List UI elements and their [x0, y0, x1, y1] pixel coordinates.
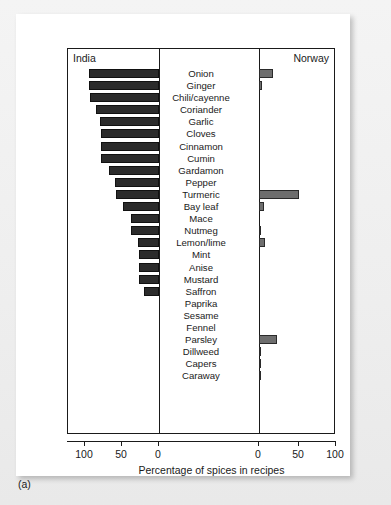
norway-bar — [259, 347, 261, 356]
x-axis-tick — [335, 441, 336, 446]
x-axis-tick-label: 50 — [115, 448, 127, 460]
spice-label: Mace — [68, 213, 334, 225]
spice-row: Parsley — [68, 334, 334, 346]
spice-row: Coriander — [68, 104, 334, 116]
india-bar — [101, 154, 159, 163]
x-axis-tick-label: 100 — [75, 448, 93, 460]
spice-label: Fennel — [68, 322, 334, 334]
spice-row: Anise — [68, 262, 334, 274]
x-axis-tick-label: 50 — [292, 448, 304, 460]
right-group-title: Norway — [293, 52, 329, 64]
x-axis-tick-label: 0 — [155, 448, 161, 460]
x-axis-tick — [121, 441, 122, 446]
india-bar — [90, 93, 159, 102]
norway-bar — [259, 335, 277, 344]
x-axis-tick — [84, 441, 85, 446]
bar-rows-container: OnionGingerChili/cayenneCorianderGarlicC… — [68, 68, 334, 382]
spice-label: Dillweed — [68, 346, 334, 358]
spice-row: Saffron — [68, 286, 334, 298]
spice-row: Lemon/lime — [68, 237, 334, 249]
india-bar — [100, 117, 159, 126]
page-root: India Norway OnionGingerChili/cayenneCor… — [0, 0, 391, 505]
spice-row: Mace — [68, 213, 334, 225]
spice-row: Nutmeg — [68, 225, 334, 237]
india-bar — [144, 287, 159, 296]
spice-row: Caraway — [68, 370, 334, 382]
norway-bar — [259, 359, 261, 368]
india-bar — [139, 275, 159, 284]
india-bar — [139, 263, 159, 272]
x-axis-tick-label: 100 — [326, 448, 344, 460]
spice-label: Parsley — [68, 334, 334, 346]
spice-row: Cinnamon — [68, 141, 334, 153]
spice-row: Onion — [68, 68, 334, 80]
india-bar — [96, 105, 159, 114]
spice-label: Anise — [68, 262, 334, 274]
india-bar — [101, 142, 159, 151]
india-bar — [101, 129, 159, 138]
spice-row: Bay leaf — [68, 201, 334, 213]
spice-label: Sesame — [68, 310, 334, 322]
spice-label: Gardamon — [68, 165, 334, 177]
india-bar — [116, 190, 159, 199]
norway-bar — [259, 226, 261, 235]
spice-label: Mustard — [68, 274, 334, 286]
spice-label: Bay leaf — [68, 201, 334, 213]
spice-label: Saffron — [68, 286, 334, 298]
norway-bar — [259, 81, 262, 90]
spice-row: Dillweed — [68, 346, 334, 358]
india-bar — [109, 166, 159, 175]
panel-letter: (a) — [18, 478, 31, 490]
india-bar — [115, 178, 159, 187]
spice-row: Mint — [68, 249, 334, 261]
norway-bar — [259, 371, 261, 380]
spice-row: Pepper — [68, 177, 334, 189]
spice-row: Garlic — [68, 116, 334, 128]
plot-frame: India Norway OnionGingerChili/cayenneCor… — [67, 48, 335, 434]
india-bar — [123, 202, 159, 211]
left-group-title: India — [73, 52, 96, 64]
spice-row: Capers — [68, 358, 334, 370]
x-axis-line — [67, 441, 335, 442]
spice-row: Mustard — [68, 274, 334, 286]
spice-label: Caraway — [68, 370, 334, 382]
x-axis-tick — [298, 441, 299, 446]
norway-bar — [259, 238, 265, 247]
india-bar — [131, 226, 159, 235]
norway-bar — [259, 69, 273, 78]
spice-label: Mint — [68, 249, 334, 261]
spice-label: Paprika — [68, 298, 334, 310]
india-bar — [138, 238, 159, 247]
spice-row: Turmeric — [68, 189, 334, 201]
spice-label: Lemon/lime — [68, 237, 334, 249]
spice-row: Fennel — [68, 322, 334, 334]
norway-bar — [259, 190, 299, 199]
spice-row: Sesame — [68, 310, 334, 322]
spice-row: Paprika — [68, 298, 334, 310]
spice-row: Ginger — [68, 80, 334, 92]
spice-label: Capers — [68, 358, 334, 370]
x-axis-title: Percentage of spices in recipes — [16, 464, 391, 476]
x-axis-tick-label: 0 — [255, 448, 261, 460]
spice-label: Pepper — [68, 177, 334, 189]
spice-row: Chili/cayenne — [68, 92, 334, 104]
spice-row: Cloves — [68, 128, 334, 140]
india-bar — [89, 69, 159, 78]
spice-row: Cumin — [68, 153, 334, 165]
spice-row: Gardamon — [68, 165, 334, 177]
india-bar — [139, 250, 159, 259]
x-axis-tick — [258, 441, 259, 446]
india-bar — [89, 81, 159, 90]
figure-card: India Norway OnionGingerChili/cayenneCor… — [16, 14, 350, 476]
spice-label: Nutmeg — [68, 225, 334, 237]
india-bar — [131, 214, 159, 223]
norway-bar — [259, 202, 264, 211]
x-axis-tick — [158, 441, 159, 446]
